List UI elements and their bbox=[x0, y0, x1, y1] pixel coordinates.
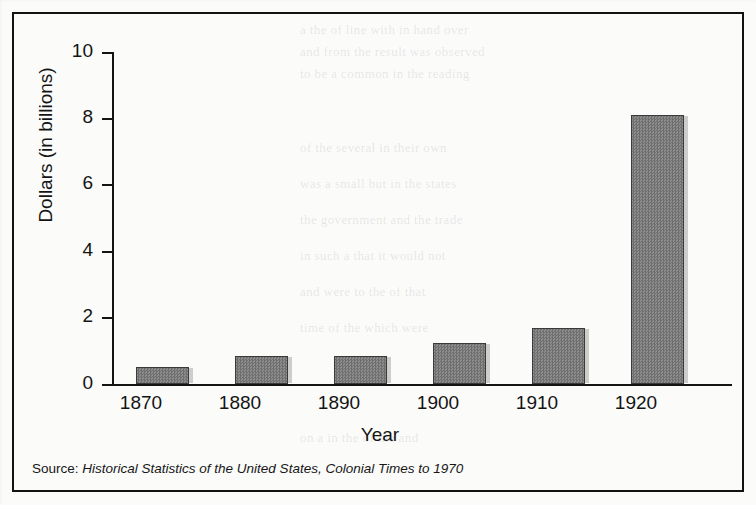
x-axis-title: Year bbox=[14, 424, 746, 446]
bar-1920 bbox=[631, 115, 684, 384]
x-axis-tick-label-1870: 1870 bbox=[96, 392, 186, 414]
x-axis-line bbox=[112, 384, 732, 386]
x-axis-tick-label-1890: 1890 bbox=[294, 392, 384, 414]
y-axis-tick-0: 0 bbox=[102, 384, 114, 386]
y-axis-tick-10: 10 bbox=[102, 52, 114, 54]
bar-1870 bbox=[136, 367, 189, 384]
x-axis-tick-label-1880: 1880 bbox=[195, 392, 285, 414]
source-note-title: Historical Statistics of the United Stat… bbox=[82, 461, 463, 476]
bar-1910 bbox=[532, 328, 585, 384]
chart-plot-area: 0 2 4 6 8 10 Dollars (in billions) bbox=[14, 14, 746, 494]
source-note: Source: Historical Statistics of the Uni… bbox=[32, 461, 463, 476]
y-axis-tick-2: 2 bbox=[102, 317, 114, 319]
y-axis-tick-label: 4 bbox=[82, 239, 93, 261]
chart-title-clip bbox=[0, 0, 756, 1]
bar-1880 bbox=[235, 356, 288, 384]
x-axis-tick-label-1900: 1900 bbox=[393, 392, 483, 414]
page-background: a the of line with in hand over and from… bbox=[0, 0, 756, 505]
y-axis-tick-label: 2 bbox=[82, 305, 93, 327]
y-axis-tick-label: 8 bbox=[82, 106, 93, 128]
bars-layer bbox=[114, 52, 732, 384]
y-axis-tick-label: 0 bbox=[82, 372, 93, 394]
y-axis-title: Dollars (in billions) bbox=[35, 0, 57, 295]
x-axis-tick-label-1920: 1920 bbox=[591, 392, 681, 414]
source-note-label: Source: bbox=[32, 461, 79, 476]
y-axis-tick-4: 4 bbox=[102, 251, 114, 253]
bar-1900 bbox=[433, 343, 486, 385]
figure-frame: 0 2 4 6 8 10 Dollars (in billions) bbox=[12, 12, 744, 492]
y-axis-tick-label: 10 bbox=[72, 40, 93, 62]
bar-1890 bbox=[334, 356, 387, 384]
y-axis-tick-8: 8 bbox=[102, 118, 114, 120]
x-axis-tick-label-1910: 1910 bbox=[492, 392, 582, 414]
y-axis-tick-label: 6 bbox=[82, 172, 93, 194]
y-axis-tick-6: 6 bbox=[102, 184, 114, 186]
